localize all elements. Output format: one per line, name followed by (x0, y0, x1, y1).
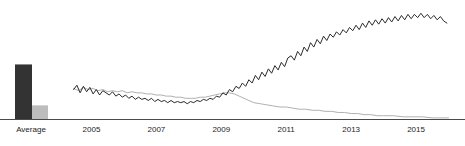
timeseries-panel: 200520072009201120132015 (74, 13, 449, 134)
line-series-dark (74, 13, 447, 103)
bar-dark (15, 64, 32, 119)
x-tick-label-2011: 2011 (278, 125, 296, 134)
sparkline-figure: Average 200520072009201120132015 (0, 0, 465, 146)
bar-gray (32, 105, 48, 119)
average-bar-panel: Average (15, 64, 48, 134)
x-tick-label-2015: 2015 (407, 125, 425, 134)
chart-canvas: Average 200520072009201120132015 (0, 0, 465, 146)
x-tick-label-2013: 2013 (342, 125, 360, 134)
x-tick-label-2005: 2005 (83, 125, 101, 134)
x-tick-label-2007: 2007 (147, 125, 165, 134)
bar-category-label-average: Average (16, 125, 46, 134)
x-tick-label-2009: 2009 (212, 125, 230, 134)
line-series-gray (74, 87, 449, 118)
x-axis-tick-labels: 200520072009201120132015 (83, 125, 426, 134)
